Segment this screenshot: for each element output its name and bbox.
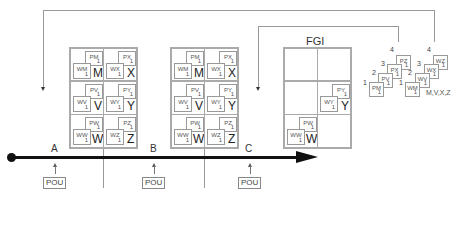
station-divider	[103, 148, 104, 188]
board-cell: PZ1 WZ1 Z	[103, 114, 137, 148]
item-label: X	[127, 67, 135, 79]
pou-box-c[interactable]: POU	[238, 177, 261, 189]
withdrawal-kanban-card[interactable]: WY1	[207, 96, 225, 112]
sequence-number: 4	[390, 46, 394, 53]
item-label: Z	[228, 133, 235, 145]
pou-box-a[interactable]: POU	[43, 177, 66, 189]
item-label: M	[194, 67, 204, 79]
item-label: V	[195, 100, 203, 112]
board-cell: PY1 WY1 Y	[103, 81, 137, 115]
sequence-legend: M,V,X,Z	[426, 89, 451, 96]
timeline-start-dot	[7, 153, 16, 162]
withdrawal-kanban-card[interactable]: WY1	[320, 96, 338, 112]
fgi-cell	[317, 114, 351, 148]
item-label: W	[306, 133, 317, 145]
fgi-cell	[284, 81, 318, 115]
sequence-number: 3	[417, 60, 421, 67]
process-timeline	[12, 156, 310, 159]
kanban-board-2: PM1 WM1 M PX1 WX1 X PV1 WV1 V PY1 WY1 Y …	[170, 47, 239, 149]
item-label: Y	[228, 100, 236, 112]
withdrawal-kanban-card[interactable]: WV1	[174, 96, 192, 112]
sequence-number: 2	[372, 69, 376, 76]
item-label: Y	[127, 100, 135, 112]
sequence-number: 3	[381, 60, 385, 67]
withdrawal-kanban-card[interactable]: WW1	[73, 129, 91, 145]
kanban-board-1: PM1 WM1 M PX1 WX1 X PV1 WV1 V PY1 WY1 Y …	[69, 47, 138, 149]
stacked-kanban-card[interactable]: WM1	[405, 82, 420, 97]
timeline-arrowhead-icon	[296, 151, 318, 163]
fgi-board: PY1 WY1 Y PW1 WW1 W	[283, 47, 352, 149]
fgi-cell	[284, 48, 318, 81]
withdrawal-kanban-card[interactable]: WW1	[287, 129, 305, 145]
item-label: V	[94, 100, 102, 112]
board-cell: PV1 WV1 V	[70, 81, 104, 115]
arrow-down-icon	[256, 87, 260, 91]
station-label-b: B	[150, 144, 157, 154]
board-cell: PV1 WV1 V	[171, 81, 205, 115]
item-label: W	[92, 133, 103, 145]
board-cell: PM1 WM1 M	[171, 48, 205, 81]
item-label: Z	[127, 133, 134, 145]
sequence-number: 1	[399, 79, 403, 86]
item-label: X	[228, 67, 236, 79]
sequence-number: 2	[408, 69, 412, 76]
withdrawal-kanban-card[interactable]: WW1	[174, 129, 192, 145]
board-cell: PX1 WX1 X	[103, 48, 137, 81]
fgi-title: FGI	[306, 36, 324, 46]
board-cell: PY1 WY1 Y	[204, 81, 238, 115]
fgi-cell: PY1 WY1 Y	[317, 81, 351, 115]
sequence-number: 4	[427, 46, 431, 53]
sequence-number: 1	[363, 79, 367, 86]
arrow-down-icon	[41, 87, 45, 91]
stacked-kanban-card[interactable]: PM1	[369, 82, 384, 97]
station-label-a: A	[51, 144, 58, 154]
item-label: W	[193, 133, 204, 145]
withdrawal-kanban-card[interactable]: WM1	[174, 63, 192, 79]
withdrawal-kanban-card[interactable]: WX1	[207, 63, 225, 79]
station-label-c: C	[245, 144, 252, 154]
withdrawal-kanban-card[interactable]: WY1	[106, 96, 124, 112]
withdrawal-kanban-card[interactable]: WZ1	[207, 129, 225, 145]
board-cell: PW1 WW1 W	[70, 114, 104, 148]
pou-box-b[interactable]: POU	[142, 177, 165, 189]
board-cell: PM1 WM1 M	[70, 48, 104, 81]
station-divider	[204, 148, 205, 188]
board-cell: PX1 WX1 X	[204, 48, 238, 81]
fgi-cell: PW1 WW1 W	[284, 114, 318, 148]
item-label: M	[93, 67, 103, 79]
fgi-cell	[317, 48, 351, 81]
withdrawal-kanban-card[interactable]: WV1	[73, 96, 91, 112]
item-label: Y	[341, 100, 349, 112]
withdrawal-kanban-card[interactable]: WX1	[106, 63, 124, 79]
board-cell: PW1 WW1 W	[171, 114, 205, 148]
withdrawal-kanban-card[interactable]: WZ1	[106, 129, 124, 145]
board-cell: PZ1 WZ1 Z	[204, 114, 238, 148]
withdrawal-kanban-card[interactable]: WM1	[73, 63, 91, 79]
